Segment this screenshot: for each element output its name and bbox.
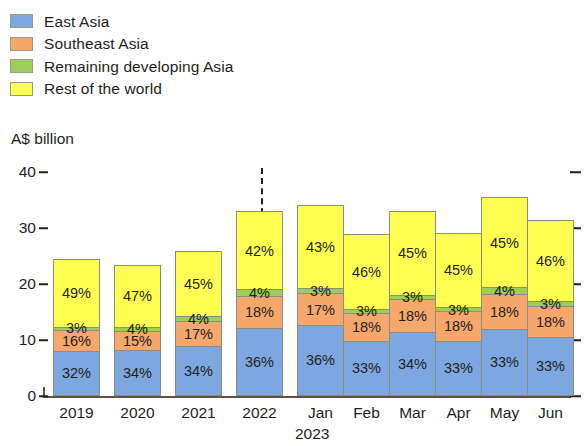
bar-segment-label: 18%: [490, 305, 519, 320]
bar-segment-southeast-asia[interactable]: 18%: [481, 294, 528, 330]
bar-segment-label: 45%: [398, 246, 427, 261]
bar-segment-label: 3%: [540, 297, 561, 312]
bar-segment-label: 36%: [306, 353, 335, 368]
bar-apr[interactable]: 33%18%3%45%: [435, 228, 482, 396]
bar-segment-east-asia[interactable]: 32%: [53, 351, 100, 396]
bar-2020[interactable]: 34%15%4%47%: [114, 262, 161, 396]
bar-segment-rest-of-the-world[interactable]: 46%: [527, 220, 574, 302]
bar-segment-label: 17%: [306, 303, 335, 318]
bar-segment-east-asia[interactable]: 34%: [175, 346, 222, 396]
bar-segment-label: 49%: [62, 286, 91, 301]
bar-segment-label: 4%: [494, 284, 515, 299]
bar-segment-label: 36%: [245, 355, 274, 370]
bar-jun[interactable]: 33%18%3%46%: [527, 217, 574, 396]
chart-plot-area: 40302010032%16%3%49%201934%15%4%47%20203…: [0, 0, 585, 446]
bar-segment-east-asia[interactable]: 36%: [236, 328, 283, 396]
bar-segment-east-asia[interactable]: 34%: [114, 350, 161, 396]
x-axis-tick-label-2021: 2021: [181, 404, 215, 422]
bar-segment-label: 3%: [310, 284, 331, 299]
bar-feb[interactable]: 33%18%3%46%: [343, 231, 390, 396]
y-axis-tick-label: 10: [6, 331, 36, 349]
bar-segment-label: 46%: [352, 265, 381, 280]
bar-segment-label: 45%: [490, 236, 519, 251]
bar-segment-label: 4%: [188, 312, 209, 327]
y-axis-tick-mark-right: [570, 171, 581, 173]
x-axis-tick-label-may: May: [490, 404, 519, 422]
x-axis-baseline: [43, 396, 571, 398]
bar-segment-east-asia[interactable]: 33%: [435, 341, 482, 396]
bar-segment-label: 47%: [123, 289, 152, 304]
x-axis-tick-label-2020: 2020: [120, 404, 154, 422]
bar-segment-label: 45%: [444, 263, 473, 278]
bar-segment-label: 34%: [398, 357, 427, 372]
bar-2022[interactable]: 36%18%4%42%: [236, 208, 283, 396]
bar-segment-east-asia[interactable]: 33%: [343, 341, 390, 396]
bar-segment-rest-of-the-world[interactable]: 46%: [343, 234, 390, 310]
bar-2021[interactable]: 34%17%4%45%: [175, 248, 222, 396]
bar-segment-label: 3%: [356, 304, 377, 319]
bar-segment-rest-of-the-world[interactable]: 45%: [175, 251, 222, 318]
x-axis-tick-label-2022: 2022: [242, 404, 276, 422]
bar-segment-label: 32%: [62, 366, 91, 381]
bar-mar[interactable]: 34%18%3%45%: [389, 208, 436, 396]
x-axis-tick-label-mar: Mar: [399, 404, 426, 422]
bar-2019[interactable]: 32%16%3%49%: [53, 256, 100, 396]
y-axis-tick-label: 20: [6, 275, 36, 293]
bar-segment-label: 4%: [127, 322, 148, 337]
bar-segment-east-asia[interactable]: 36%: [297, 325, 344, 396]
bar-segment-label: 18%: [444, 319, 473, 334]
bar-segment-rest-of-the-world[interactable]: 47%: [114, 265, 161, 328]
x-axis-tick-label-jan: Jan: [308, 404, 333, 422]
x-axis-tick-label-2019: 2019: [59, 404, 93, 422]
y-axis-tick-mark: [39, 171, 48, 173]
bar-segment-rest-of-the-world[interactable]: 45%: [389, 211, 436, 295]
bar-segment-label: 3%: [66, 321, 87, 336]
x-axis-year-sublabel: 2023: [295, 425, 329, 443]
bar-segment-label: 18%: [245, 305, 274, 320]
bar-segment-label: 3%: [402, 290, 423, 305]
bar-segment-label: 18%: [352, 320, 381, 335]
bar-segment-remaining-developing-asia[interactable]: 4%: [481, 287, 528, 295]
y-axis-tick-label: 0: [6, 387, 36, 405]
bar-segment-label: 3%: [448, 303, 469, 318]
x-axis-tick-label-feb: Feb: [353, 404, 380, 422]
bar-segment-label: 33%: [490, 355, 519, 370]
y-axis-tick-mark: [39, 227, 48, 229]
bar-jan[interactable]: 36%17%3%43%: [297, 200, 344, 396]
x-axis-tick-label-apr: Apr: [446, 404, 470, 422]
bar-may[interactable]: 33%18%4%45%: [481, 194, 528, 396]
bar-segment-rest-of-the-world[interactable]: 49%: [53, 259, 100, 328]
bar-segment-label: 33%: [444, 361, 473, 376]
bar-segment-east-asia[interactable]: 33%: [527, 337, 574, 396]
bar-segment-east-asia[interactable]: 33%: [481, 329, 528, 396]
bar-segment-label: 17%: [184, 327, 213, 342]
bar-segment-label: 33%: [536, 359, 565, 374]
bar-segment-label: 46%: [536, 254, 565, 269]
bar-segment-southeast-asia[interactable]: 18%: [236, 296, 283, 330]
y-axis-tick-mark: [39, 395, 48, 397]
bar-segment-rest-of-the-world[interactable]: 45%: [435, 233, 482, 309]
bar-segment-label: 18%: [398, 309, 427, 324]
y-axis-tick-mark: [39, 339, 48, 341]
bar-segment-label: 18%: [536, 315, 565, 330]
y-axis-tick-label: 40: [6, 163, 36, 181]
bar-segment-rest-of-the-world[interactable]: 45%: [481, 197, 528, 288]
bar-segment-label: 45%: [184, 277, 213, 292]
bar-segment-label: 33%: [352, 361, 381, 376]
x-axis-tick-label-jun: Jun: [538, 404, 563, 422]
bar-segment-label: 42%: [245, 244, 274, 259]
bar-segment-label: 43%: [306, 240, 335, 255]
y-axis-tick-label: 30: [6, 219, 36, 237]
bar-segment-label: 4%: [249, 286, 270, 301]
bar-segment-rest-of-the-world[interactable]: 43%: [297, 205, 344, 289]
bar-segment-remaining-developing-asia[interactable]: 4%: [236, 289, 283, 297]
bar-segment-east-asia[interactable]: 34%: [389, 332, 436, 396]
bar-segment-rest-of-the-world[interactable]: 42%: [236, 211, 283, 290]
bar-segment-label: 34%: [184, 364, 213, 379]
bar-segment-label: 34%: [123, 366, 152, 381]
y-axis-tick-mark: [39, 283, 48, 285]
